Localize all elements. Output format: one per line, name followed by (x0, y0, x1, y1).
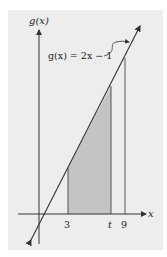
tick-label-t: t (108, 219, 112, 230)
tick-label-9: 9 (121, 219, 127, 230)
area-diagram: g(x) x g(x) = 2x − 1 3 t 9 (0, 0, 167, 257)
shaded-area (68, 86, 111, 214)
function-label: g(x) = 2x − 1 (48, 50, 112, 61)
y-axis-label: g(x) (29, 15, 49, 26)
tick-label-3: 3 (64, 219, 70, 230)
x-axis-label: x (148, 208, 154, 219)
